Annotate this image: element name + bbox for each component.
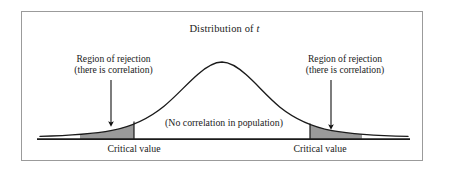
right-critical-value-label: Critical value bbox=[252, 144, 388, 155]
left-region-label-line2: (there is correlation) bbox=[47, 65, 180, 76]
right-region-label: Region of rejection (there is correlatio… bbox=[275, 54, 415, 75]
right-region-label-line2: (there is correlation) bbox=[275, 65, 415, 76]
figure-title-symbol: t bbox=[257, 23, 260, 34]
left-region-label: Region of rejection (there is correlatio… bbox=[47, 54, 180, 75]
figure-title: Distribution of t bbox=[0, 23, 449, 35]
center-note-label: (No correlation in population) bbox=[135, 118, 313, 129]
figure-title-prefix: Distribution of bbox=[189, 23, 256, 34]
distribution-figure: Distribution of t Region of rejection (t… bbox=[0, 0, 449, 173]
left-critical-value-label: Critical value bbox=[70, 144, 198, 155]
